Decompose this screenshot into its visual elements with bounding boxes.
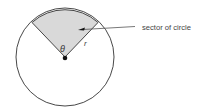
radius-r-label: r: [84, 39, 87, 48]
center-point: [63, 56, 68, 61]
angle-theta-label: θ: [60, 44, 65, 54]
sector-label: sector of circle: [142, 23, 191, 32]
sector-diagram: θ r sector of circle: [0, 0, 210, 109]
